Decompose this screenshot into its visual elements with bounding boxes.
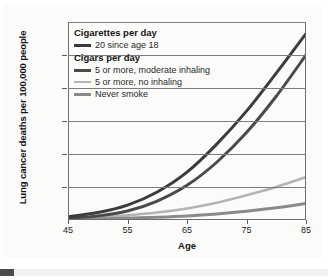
scrollbar-thumb[interactable] (0, 269, 14, 276)
y-tick-mark (62, 121, 67, 122)
legend-group-heading: Cigarettes per day (74, 26, 254, 39)
legend-swatch-icon (74, 69, 91, 72)
legend-swatch-icon (74, 81, 91, 83)
y-tick-mark (62, 55, 67, 56)
legend-item-label: 5 or more, no inhaling (95, 76, 182, 88)
legend-item-label: 5 or more, moderate inhaling (95, 64, 210, 76)
x-tick-mark (128, 220, 129, 224)
gridline (68, 187, 306, 188)
legend-item-label: Never smoke (95, 88, 148, 100)
x-tick-mark (306, 220, 307, 224)
legend-item[interactable]: Never smoke (74, 88, 254, 100)
gridline (68, 154, 306, 155)
x-tick-label: 45 (53, 225, 83, 235)
legend-item[interactable]: 5 or more, moderate inhaling (74, 64, 254, 76)
x-tick-mark (187, 220, 188, 224)
x-tick-label: 55 (113, 225, 143, 235)
y-axis-title: Lung cancer deaths per 100,000 people (17, 13, 28, 223)
legend-group-heading: Cigars per day (74, 51, 254, 64)
scrollbar-track[interactable] (0, 269, 328, 276)
chart-figure: Lung cancer deaths per 100,000 people 02… (0, 0, 328, 280)
legend-swatch-icon (74, 93, 91, 96)
legend-swatch-icon (74, 44, 91, 47)
legend-item-label: 20 since age 18 (95, 39, 159, 51)
y-tick-mark (62, 187, 67, 188)
x-tick-label: 65 (172, 225, 202, 235)
legend-item[interactable]: 20 since age 18 (74, 39, 254, 51)
chart-legend: Cigarettes per day20 since age 18Cigars … (74, 26, 254, 100)
y-tick-mark (62, 88, 67, 89)
y-tick-mark (62, 154, 67, 155)
x-axis-title: Age (68, 240, 306, 251)
x-tick-mark (247, 220, 248, 224)
x-tick-label: 75 (232, 225, 262, 235)
legend-item[interactable]: 5 or more, no inhaling (74, 76, 254, 88)
gridline (68, 121, 306, 122)
x-tick-mark (68, 220, 69, 224)
x-tick-label: 85 (291, 225, 321, 235)
gridline (68, 22, 306, 23)
